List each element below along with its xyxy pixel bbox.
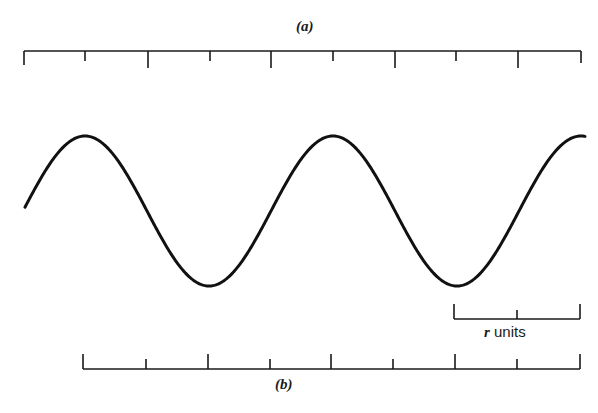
wave-figure bbox=[0, 0, 598, 413]
sine-wave-curve bbox=[25, 136, 585, 286]
r-units-scale-bar bbox=[454, 304, 580, 319]
panel-a-label: (a) bbox=[296, 18, 314, 35]
scale-variable: r bbox=[484, 324, 490, 340]
panel-b-label: (b) bbox=[275, 376, 293, 393]
scale-bar-label: r units bbox=[484, 323, 526, 341]
scale-unit-text: units bbox=[494, 323, 526, 340]
top-ruler-a bbox=[24, 51, 581, 68]
bottom-ruler-b bbox=[83, 354, 580, 369]
